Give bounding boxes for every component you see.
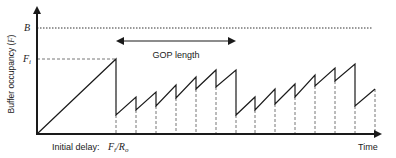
gop-length-label: GOP length xyxy=(153,50,200,60)
buffer-occupancy-curve xyxy=(37,59,375,134)
x-axis-label: Time xyxy=(358,142,378,152)
fi-level-label: Fi xyxy=(22,53,31,66)
buffer-occupancy-diagram: GOP length Buffer occupancy (F) B Fi Tim… xyxy=(0,0,396,158)
y-axis-label: Buffer occupancy (F) xyxy=(6,34,16,113)
initial-delay-label: Initial delay: xyxy=(52,142,100,152)
frame-markers xyxy=(116,81,375,134)
b-level-label: B xyxy=(24,22,30,33)
initial-delay-value: Fi/Ro xyxy=(107,141,129,154)
